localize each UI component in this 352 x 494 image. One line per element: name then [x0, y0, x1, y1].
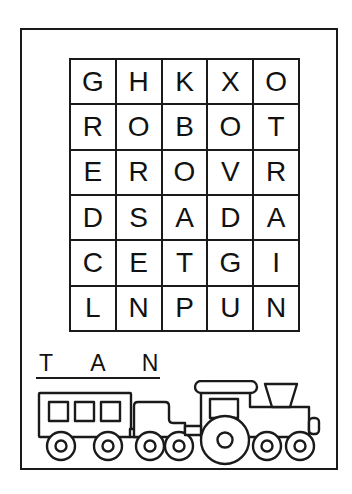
grid-cell[interactable]: T — [163, 241, 209, 286]
grid-cell[interactable]: R — [71, 105, 117, 150]
grid-cell[interactable]: V — [208, 151, 254, 196]
hint-slot-3: A — [88, 352, 108, 375]
tender-car-wheel-1-hub — [145, 441, 156, 452]
grid-cell[interactable]: P — [163, 287, 209, 332]
grid-cell[interactable]: C — [71, 241, 117, 286]
passenger-car-wheel-1-hub — [56, 441, 67, 452]
locomotive-drive-wheel-hub — [218, 433, 233, 448]
grid-cell[interactable]: O — [163, 151, 209, 196]
letter-search-grid[interactable]: G H K X O R O B O T E R O V R D S A D A … — [69, 58, 300, 332]
grid-cell[interactable]: K — [163, 60, 209, 105]
locomotive-wheel-3-hub — [295, 441, 306, 452]
grid-cell[interactable]: D — [208, 196, 254, 241]
hint-slot-1: T — [36, 352, 56, 375]
grid-cell[interactable]: U — [208, 287, 254, 332]
grid-cell[interactable]: T — [254, 105, 300, 150]
locomotive-smokestack — [265, 384, 297, 407]
locomotive-rear-coupler — [185, 426, 201, 435]
grid-cell[interactable]: H — [117, 60, 163, 105]
passenger-car-window-1 — [49, 402, 68, 421]
locomotive-wheel-2-hub — [262, 441, 273, 452]
train-svg — [22, 380, 336, 468]
grid-cell[interactable]: S — [117, 196, 163, 241]
locomotive-cab-roof — [195, 381, 257, 393]
grid-cell[interactable]: O — [208, 105, 254, 150]
grid-cell[interactable]: N — [117, 287, 163, 332]
passenger-car — [39, 393, 142, 460]
locomotive — [185, 381, 319, 464]
grid-cell[interactable]: G — [71, 60, 117, 105]
passenger-car-wheel-2-hub — [103, 441, 114, 452]
grid-cell[interactable]: I — [254, 241, 300, 286]
grid-cell[interactable]: O — [117, 105, 163, 150]
grid-cell[interactable]: X — [208, 60, 254, 105]
hint-slot-4-blank[interactable]: _ — [114, 352, 134, 375]
passenger-car-window-3 — [101, 402, 120, 421]
hint-slot-2-blank[interactable]: _ — [62, 352, 82, 375]
word-hint-blanks[interactable]: T _ A _ N — [36, 349, 160, 379]
grid-cell[interactable]: A — [254, 196, 300, 241]
worksheet-page: G H K X O R O B O T E R O V R D S A D A … — [0, 0, 352, 494]
grid-cell[interactable]: O — [254, 60, 300, 105]
grid-cell[interactable]: L — [71, 287, 117, 332]
hint-slot-5: N — [140, 352, 160, 375]
tender-car-wheel-2-hub — [174, 441, 185, 452]
grid-cell[interactable]: D — [71, 196, 117, 241]
locomotive-front-coupler — [309, 418, 319, 434]
grid-cell[interactable]: E — [117, 241, 163, 286]
grid-cell[interactable]: G — [208, 241, 254, 286]
grid-cell[interactable]: R — [254, 151, 300, 196]
grid-cell[interactable]: N — [254, 287, 300, 332]
train-illustration — [22, 380, 336, 468]
grid-cell[interactable]: R — [117, 151, 163, 196]
grid-cell[interactable]: E — [71, 151, 117, 196]
passenger-car-window-2 — [75, 402, 94, 421]
grid-cell[interactable]: A — [163, 196, 209, 241]
grid-cell[interactable]: B — [163, 105, 209, 150]
